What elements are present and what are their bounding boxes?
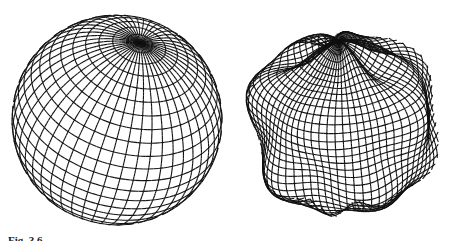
sphere-figure-left: [0, 0, 230, 235]
deformed-sphere-graphic: [229, 0, 459, 235]
figure-caption: Fig. 3.6: [8, 234, 43, 241]
wireframe-sphere-graphic: [0, 0, 230, 235]
sphere-figure-right: [229, 0, 459, 235]
figure-caption-label: Fig. 3.6: [8, 234, 43, 241]
